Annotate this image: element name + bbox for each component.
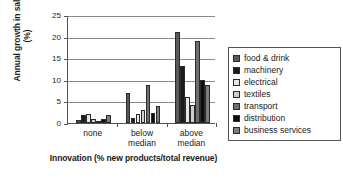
bar (101, 119, 106, 123)
legend-swatch-icon (233, 103, 240, 110)
bar (200, 80, 205, 123)
bar-group (68, 16, 117, 123)
bar (175, 32, 180, 123)
bar (131, 118, 136, 123)
bar-chart-figure: Annual growth in sales (%) 0510152025 no… (0, 0, 343, 187)
bar (81, 115, 86, 123)
y-tick-label: 0 (57, 120, 61, 128)
bar (195, 41, 200, 124)
legend-item[interactable]: business services (233, 124, 337, 136)
legend-swatch-icon (233, 91, 240, 98)
y-tick-label: 15 (52, 55, 61, 63)
x-tick (117, 123, 118, 127)
y-tick-label: 5 (57, 98, 61, 106)
legend-swatch-icon (233, 115, 240, 122)
x-tick-label-line: below (131, 128, 153, 138)
legend-label: food & drink (244, 54, 289, 63)
y-tick-label: 10 (52, 77, 61, 85)
legend-label: distribution (244, 114, 285, 123)
legend-item[interactable]: distribution (233, 112, 337, 124)
bar (136, 114, 141, 123)
bar (141, 110, 146, 123)
plot-area: 0510152025 nonebelowmedianabovemedian (67, 16, 215, 124)
x-tick-label-line: none (83, 128, 102, 138)
y-tick-label: 25 (52, 12, 61, 20)
bar (146, 85, 151, 123)
legend-item[interactable]: electrical (233, 76, 337, 88)
bar-group (167, 16, 216, 123)
legend: food & drinkmachineryelectricaltextilest… (228, 47, 341, 141)
x-tick-label-line: above (180, 128, 203, 138)
legend-swatch-icon (233, 67, 240, 74)
bar (190, 105, 195, 123)
legend-label: electrical (244, 78, 278, 87)
x-tick (216, 123, 217, 127)
legend-swatch-icon (233, 79, 240, 86)
x-tick-label: abovemedian (161, 128, 221, 148)
legend-item[interactable]: transport (233, 100, 337, 112)
bar (91, 119, 96, 123)
y-tick (64, 124, 68, 125)
bar-group (117, 16, 166, 123)
legend-item[interactable]: machinery (233, 64, 337, 76)
bar (180, 66, 185, 123)
legend-item[interactable]: food & drink (233, 52, 337, 64)
x-axis-title: Innovation (% new products/total revenue… (46, 153, 221, 164)
bar (156, 106, 161, 123)
bar (106, 115, 111, 123)
legend-label: machinery (244, 66, 283, 75)
bar (86, 114, 91, 123)
legend-swatch-icon (233, 127, 240, 134)
x-tick-label-line: median (177, 138, 205, 148)
legend-label: textiles (244, 90, 270, 99)
legend-item[interactable]: textiles (233, 88, 337, 100)
bar (76, 120, 81, 123)
legend-label: transport (244, 102, 278, 111)
bar (205, 85, 210, 123)
x-tick-label-line: median (128, 138, 156, 148)
y-tick-label: 20 (52, 34, 61, 42)
bar (185, 97, 190, 123)
x-tick (167, 123, 168, 127)
bar (96, 121, 101, 123)
bar-series-container (68, 16, 215, 123)
legend-label: business services (244, 126, 311, 135)
bar (151, 113, 156, 123)
legend-swatch-icon (233, 55, 240, 62)
y-axis-title: Annual growth in sales (%) (12, 0, 32, 84)
bar (126, 93, 131, 123)
